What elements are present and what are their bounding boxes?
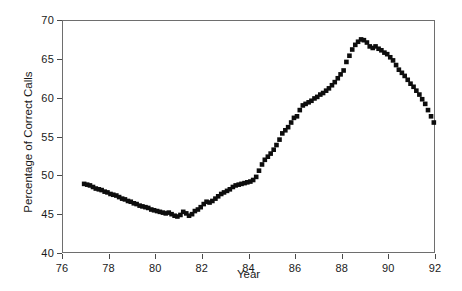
- plot-area: [62, 20, 435, 253]
- x-tick-mark: [155, 254, 156, 259]
- x-tick-mark: [388, 254, 389, 259]
- y-tick-label: 70: [16, 14, 54, 26]
- y-axis-title: Percentage of Correct Calls: [22, 52, 34, 232]
- x-tick-mark: [62, 254, 63, 259]
- y-tick-mark: [57, 59, 62, 60]
- x-axis-title: Year: [62, 268, 435, 280]
- x-tick-mark: [109, 254, 110, 259]
- y-tick-mark: [57, 137, 62, 138]
- y-tick-mark: [57, 175, 62, 176]
- x-tick-mark: [202, 254, 203, 259]
- x-tick-mark: [295, 254, 296, 259]
- y-tick-mark: [57, 98, 62, 99]
- x-tick-mark: [249, 254, 250, 259]
- chart-figure: 40455055606570 767880828486889092 Percen…: [0, 0, 462, 291]
- x-tick-mark: [342, 254, 343, 259]
- x-tick-mark: [435, 254, 436, 259]
- y-tick-mark: [57, 214, 62, 215]
- y-tick-mark: [57, 20, 62, 21]
- y-tick-label: 40: [16, 247, 54, 259]
